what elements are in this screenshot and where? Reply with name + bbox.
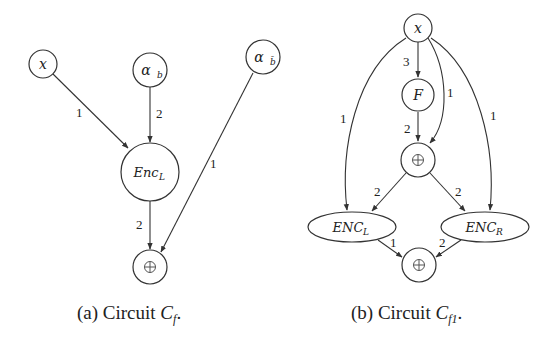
svg-text:α: α [254,49,264,65]
svg-text:Enc: Enc [132,165,159,180]
svg-text:x: x [414,20,422,36]
edge-label-alphabbar-xor: 1 [210,156,217,171]
edge-label-xor-mid-encl: 2 [374,184,381,199]
svg-text:L: L [362,227,369,237]
node-x: x [404,14,432,42]
caption-a: (a) Circuit Cf. [77,302,181,326]
circuit-figure: 1 2 1 2 x α b α b̄ Enc L [0,0,559,339]
edge-label-x-encr: 1 [490,108,497,123]
svg-text:α: α [141,62,151,78]
xor-icon [413,155,424,166]
edge-x-to-encl [53,74,128,148]
node-enc-r: ENC R [441,212,529,242]
edge-label-encl-xor-out: 1 [390,235,397,250]
edge-label-x-encl: 1 [340,111,347,126]
panel-b-circuit-cf1: 3 1 1 1 2 2 2 1 2 x F ENC L [308,14,529,326]
edge-label-encr-xor-out: 2 [439,235,446,250]
svg-text:ENC: ENC [332,220,364,235]
node-enc-l: Enc L [121,143,179,201]
svg-text:ENC: ENC [465,220,497,235]
node-enc-l: ENC L [308,212,396,242]
edge-label-xor-mid-encr: 2 [455,184,462,199]
node-alpha-bbar: α b̄ [246,40,280,74]
xor-icon [145,262,156,273]
xor-icon [414,260,425,271]
edge-label-x-encl: 1 [76,105,83,120]
edge-label-F-xor-mid: 2 [404,121,411,136]
caption-b: (b) Circuit Cf1. [351,302,462,326]
node-alpha-b: α b [133,53,167,87]
edge-label-encl-xor: 2 [136,217,143,232]
svg-text:b: b [157,70,163,80]
node-xor-output [133,250,167,284]
svg-text:x: x [39,56,47,72]
svg-text:b̄: b̄ [270,56,276,67]
svg-text:R: R [495,227,503,237]
svg-text:L: L [158,172,165,182]
edge-label-x-xor-mid: 1 [447,85,454,100]
node-xor-mid [401,143,435,177]
node-x: x [29,50,57,78]
edge-label-x-F: 3 [403,54,410,69]
panel-a-circuit-cf: 1 2 1 2 x α b α b̄ Enc L [29,40,280,326]
edge-label-alphab-encl: 2 [156,106,163,121]
node-F: F [402,79,434,111]
svg-text:F: F [412,87,424,103]
node-xor-output [402,248,436,282]
